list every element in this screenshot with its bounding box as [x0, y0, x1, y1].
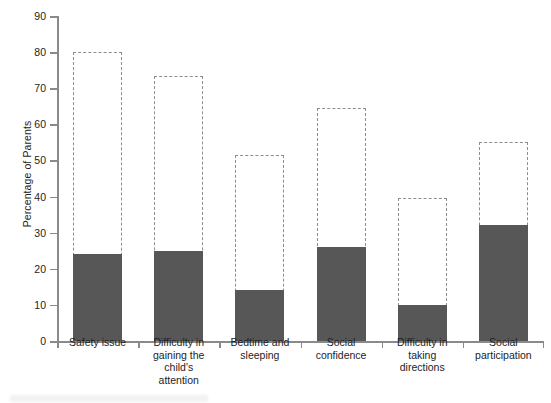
y-tick-label: 60: [34, 119, 46, 130]
x-category-label-line: participation: [463, 349, 544, 362]
x-category-label-line: directions: [382, 361, 463, 374]
bar-group: [73, 16, 122, 341]
x-category-label-line: Safety issue: [57, 336, 138, 349]
y-tick-label: 0: [40, 336, 46, 347]
y-tick-mark: [50, 160, 57, 162]
x-category-label: Socialparticipation: [463, 336, 544, 361]
y-tick-mark: [50, 305, 57, 307]
x-category-label-line: Social: [463, 336, 544, 349]
x-category-label: Socialconfidence: [301, 336, 382, 361]
y-tick-mark: [50, 52, 57, 54]
x-category-label: Difficulty intakingdirections: [382, 336, 463, 374]
bar-solid-fill: [317, 247, 366, 341]
bar-group: [154, 16, 203, 341]
x-category-label-line: gaining the: [138, 349, 219, 362]
y-tick-label: 10: [34, 300, 46, 311]
y-tick-mark: [50, 341, 57, 343]
bar-group: [317, 16, 366, 341]
y-tick-label: 80: [34, 47, 46, 58]
y-tick-label: 40: [34, 191, 46, 202]
y-axis-title: Percentage of Parents: [21, 89, 33, 259]
x-category-label: Bedtime andsleeping: [219, 336, 300, 361]
x-category-label-line: Bedtime and: [219, 336, 300, 349]
bar-solid-fill: [479, 225, 528, 341]
bar-solid-fill: [154, 251, 203, 341]
y-axis-line: [57, 16, 59, 341]
x-category-label-line: Difficulty in: [382, 336, 463, 349]
x-category-label-line: child's: [138, 361, 219, 374]
bar-chart: Percentage of Parents 010203040506070809…: [0, 0, 551, 403]
x-category-label: Safety issue: [57, 336, 138, 349]
page-edge-artifact: [10, 395, 370, 402]
plot-area: 0102030405060708090: [57, 16, 544, 341]
y-tick-label: 70: [34, 83, 46, 94]
y-tick-mark: [50, 233, 57, 235]
y-tick-mark: [50, 197, 57, 199]
y-tick-mark: [50, 88, 57, 90]
bar-solid-fill: [73, 254, 122, 341]
x-category-label: Difficulty ingaining thechild'sattention: [138, 336, 219, 386]
bar-group: [479, 16, 528, 341]
bar-group: [398, 16, 447, 341]
x-category-label-line: taking: [382, 349, 463, 362]
y-tick-label: 20: [34, 264, 46, 275]
y-tick-mark: [50, 269, 57, 271]
y-tick-label: 90: [34, 11, 46, 22]
bar-solid-fill: [235, 290, 284, 341]
y-tick-mark: [50, 16, 57, 18]
y-tick-label: 30: [34, 227, 46, 238]
x-category-label-line: confidence: [301, 349, 382, 362]
x-category-label-line: Social: [301, 336, 382, 349]
x-category-label-line: Difficulty in: [138, 336, 219, 349]
y-tick-mark: [50, 124, 57, 126]
y-tick-label: 50: [34, 155, 46, 166]
bar-group: [235, 16, 284, 341]
x-category-label-line: attention: [138, 374, 219, 387]
x-category-label-line: sleeping: [219, 349, 300, 362]
